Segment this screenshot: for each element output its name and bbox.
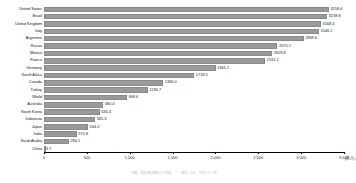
bar-value-label: 1965.1 xyxy=(216,65,229,72)
bar-value-label: 1719.5 xyxy=(194,72,207,79)
category-label: South Africa xyxy=(0,72,44,79)
bar-track: 585.3 xyxy=(44,116,350,123)
bar-value-label: 636.4 xyxy=(100,109,111,116)
bar-track: 2670.2 xyxy=(44,43,350,50)
bar-value-label: 1190.7 xyxy=(148,87,161,94)
category-label: Indonesia xyxy=(0,116,44,123)
bar xyxy=(44,43,277,49)
bar xyxy=(44,29,319,35)
axis-tick xyxy=(258,152,259,154)
axis-tick xyxy=(87,152,88,154)
bar-track: 375.8 xyxy=(44,131,350,138)
axis-tick-label: 2,500 xyxy=(253,155,263,160)
axis-tick xyxy=(301,152,302,154)
bar-row: World948.6 xyxy=(0,94,350,101)
bar-value-label: 2670.2 xyxy=(277,43,290,50)
bar xyxy=(44,131,77,137)
bar-value-label: 3238.8 xyxy=(327,13,340,20)
bar-row: United States3258.6 xyxy=(0,6,350,13)
bar-value-label: 3258.6 xyxy=(329,6,342,13)
bar-row: South Korea636.4 xyxy=(0,109,350,116)
category-label: South Korea xyxy=(0,109,44,116)
axis-tick-label: 1,500 xyxy=(168,155,178,160)
bar-track: 3168.4 xyxy=(44,21,350,28)
axis-tick xyxy=(130,152,131,154)
bar-value-label: 2969.6 xyxy=(304,35,317,42)
bar-row: United Kingdom3168.4 xyxy=(0,21,350,28)
bar xyxy=(44,58,265,64)
category-label: Canada xyxy=(0,79,44,86)
axis-tick-label: 3,000 xyxy=(296,155,306,160)
bar-row: Indonesia585.3 xyxy=(0,116,350,123)
bar-value-label: 3146.1 xyxy=(319,28,332,35)
category-label: Australia xyxy=(0,101,44,108)
bar-value-label: 2531.2 xyxy=(265,57,278,64)
bar xyxy=(44,7,329,13)
bar-track: 1365.0 xyxy=(44,79,350,86)
bar-track: 3258.6 xyxy=(44,6,350,13)
bar-row: France2531.2 xyxy=(0,57,350,64)
category-label: Brazil xyxy=(0,13,44,20)
category-label: India xyxy=(0,131,44,138)
category-label: Russia xyxy=(0,43,44,50)
bar-track: 2969.6 xyxy=(44,35,350,42)
axis-tick xyxy=(44,152,45,154)
bar xyxy=(44,36,304,42)
category-label: Japan xyxy=(0,124,44,131)
bar xyxy=(44,51,272,57)
bar xyxy=(44,139,69,145)
bar-track: 504.4 xyxy=(44,124,350,131)
bar-row: Argentina2969.6 xyxy=(0,35,350,42)
bar xyxy=(44,124,88,130)
category-label: China xyxy=(0,146,44,153)
axis-tick xyxy=(173,152,174,154)
bar-track: 636.4 xyxy=(44,109,350,116)
bar xyxy=(44,21,321,27)
bar-track: 2531.2 xyxy=(44,57,350,64)
bar xyxy=(44,65,216,71)
bar-value-label: 1365.0 xyxy=(163,79,176,86)
bar-row: Brazil3238.8 xyxy=(0,13,350,20)
x-axis: 05001,0001,5002,0002,5003,0003,500(万人) xyxy=(44,152,344,166)
bar xyxy=(44,80,163,86)
category-label: France xyxy=(0,57,44,64)
bar-value-label: 3168.4 xyxy=(321,21,334,28)
bar-value-label: 284.1 xyxy=(69,138,80,145)
bar-value-label: 680.0 xyxy=(103,101,114,108)
bar-value-label: 948.6 xyxy=(127,94,138,101)
bar-track: 284.1 xyxy=(44,138,350,145)
category-label: Turkey xyxy=(0,87,44,94)
bar xyxy=(44,95,127,101)
bar-row: Turkey1190.7 xyxy=(0,87,350,94)
plot-area: United States3258.6Brazil3238.8United Ki… xyxy=(0,6,350,152)
bar-row: Japan504.4 xyxy=(0,124,350,131)
bar-value-label: 375.8 xyxy=(77,131,88,138)
category-label: Saudi Arabia xyxy=(0,138,44,145)
bar-row: India375.8 xyxy=(0,131,350,138)
axis-unit-label: (万人) xyxy=(345,155,356,161)
axis-tick-label: 2,000 xyxy=(210,155,220,160)
bar-row: Saudi Arabia284.1 xyxy=(0,138,350,145)
bar xyxy=(44,14,327,20)
bar xyxy=(44,117,95,123)
bar-track: 948.6 xyxy=(44,94,350,101)
category-label: United Kingdom xyxy=(0,21,44,28)
bar-row: Australia680.0 xyxy=(0,101,350,108)
bar-track: 1190.7 xyxy=(44,87,350,94)
axis-line xyxy=(44,152,344,153)
bar-track: 3146.1 xyxy=(44,28,350,35)
bar-row: Italy3146.1 xyxy=(0,28,350,35)
bar-row: Germany1965.1 xyxy=(0,65,350,72)
category-label: Italy xyxy=(0,28,44,35)
axis-tick-label: 500 xyxy=(84,155,91,160)
bar xyxy=(44,73,194,79)
bar xyxy=(44,102,103,108)
axis-tick-label: 0 xyxy=(43,155,45,160)
chart-footnote: 出典：各国統計資料より作成 ／ 単位：万人 （年次データ） xyxy=(0,170,350,175)
bar xyxy=(44,87,148,93)
bar-row: Mexico2609.8 xyxy=(0,50,350,57)
bar-value-label: 2609.8 xyxy=(272,50,285,57)
axis-tick xyxy=(344,152,345,154)
bar-row: South Africa1719.5 xyxy=(0,72,350,79)
